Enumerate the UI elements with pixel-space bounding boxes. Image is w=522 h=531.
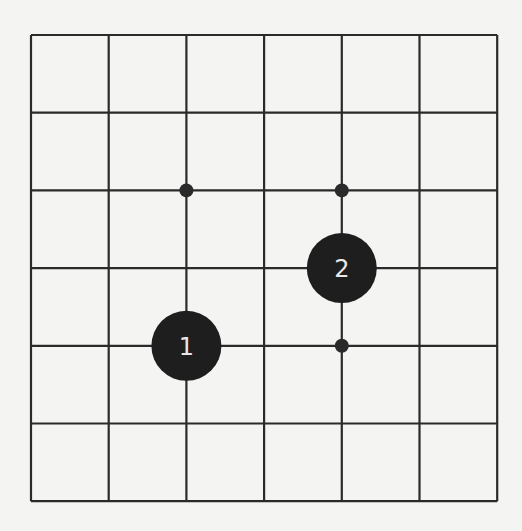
board-grid	[31, 35, 497, 501]
star-point	[335, 339, 349, 353]
stone-black-1[interactable]: 1	[151, 311, 221, 381]
star-point	[335, 183, 349, 197]
move-number-label: 2	[334, 255, 349, 283]
move-number-label: 1	[179, 333, 194, 361]
stone-black-2[interactable]: 2	[307, 233, 377, 303]
go-board: 12	[0, 0, 522, 531]
star-point	[179, 183, 193, 197]
